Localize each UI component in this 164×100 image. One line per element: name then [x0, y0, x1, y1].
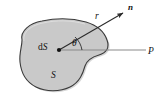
area-element-label: dS [38, 43, 48, 53]
area-element-dot [57, 48, 61, 52]
surface-label: S [51, 71, 56, 81]
point-p-label: P [148, 47, 154, 57]
angle-theta-label: θ [72, 39, 77, 49]
figure-canvas: n r θ dS S P [0, 0, 164, 100]
normal-vector-label: n [128, 3, 133, 12]
area-element-label-symbol: S [43, 42, 48, 52]
figure-vector-graphics [0, 0, 164, 100]
radius-vector-label: r [95, 12, 99, 22]
